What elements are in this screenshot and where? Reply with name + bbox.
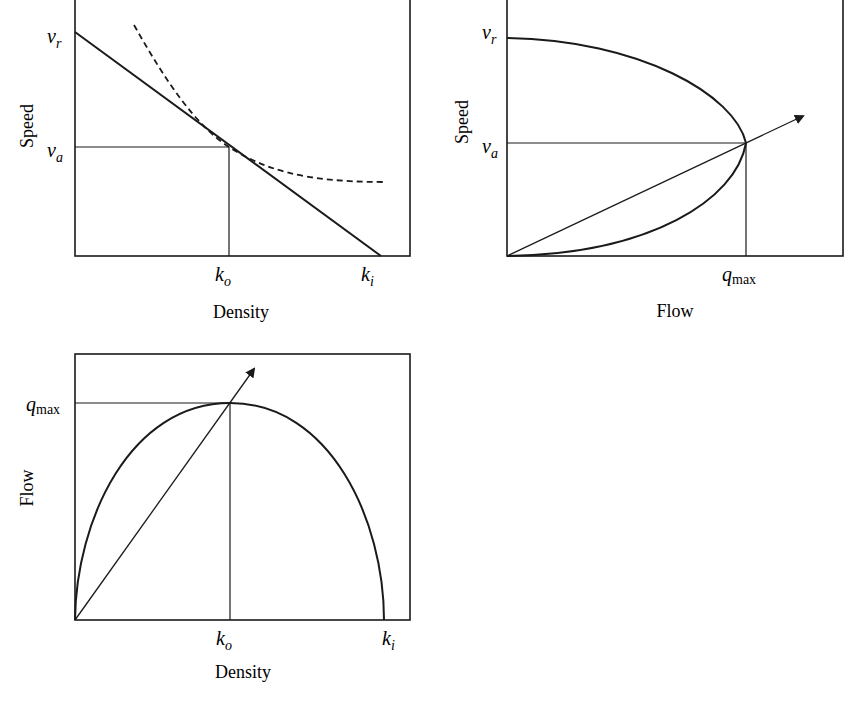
tick-label-qmax: qmax (722, 263, 756, 287)
tick-label-ko: ko (216, 627, 232, 653)
tick-label-ki: ki (361, 263, 374, 289)
tick-label-qmax: qmax (26, 393, 60, 417)
speed-flow-parabola (507, 38, 746, 256)
panel-speed-density: vr va ko ki Density Speed (17, 0, 410, 322)
plot-frame (507, 0, 843, 256)
tick-label-va: va (47, 139, 63, 165)
panel-flow-density: qmax ko ki Density Flow (17, 354, 410, 682)
traffic-flow-diagrams: vr va ko ki Density Speed vr va qmax Flo… (0, 0, 853, 702)
x-axis-label: Flow (656, 301, 693, 321)
tick-label-vr: vr (47, 25, 62, 51)
tick-label-va: va (482, 135, 498, 161)
tick-label-ko: ko (215, 263, 231, 289)
plot-frame (75, 354, 410, 620)
x-axis-label: Density (215, 662, 271, 682)
tick-label-ki: ki (382, 627, 395, 653)
panel-speed-flow: vr va qmax Flow Speed (452, 0, 843, 321)
plot-frame (75, 0, 410, 256)
y-axis-label: Flow (17, 469, 37, 506)
density-ray-arrow (507, 116, 803, 256)
linear-speed-density-line (75, 32, 381, 256)
y-axis-label: Speed (17, 104, 37, 148)
tick-label-vr: vr (482, 21, 497, 47)
speed-ray-arrow (75, 369, 254, 620)
y-axis-label: Speed (452, 100, 472, 144)
x-axis-label: Density (213, 302, 269, 322)
